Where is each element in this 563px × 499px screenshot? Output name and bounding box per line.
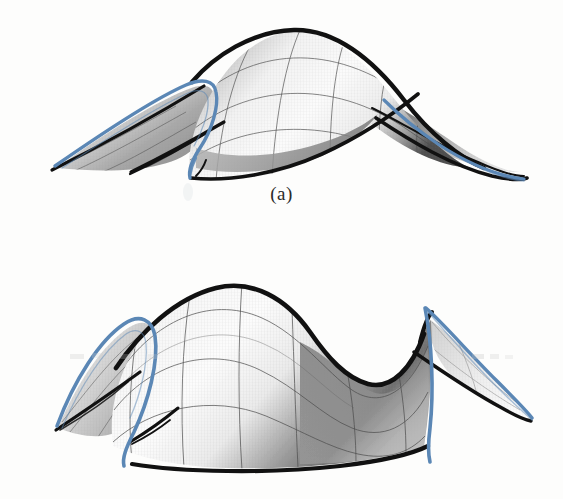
figure-panel-b: (b) xyxy=(0,250,563,499)
figure-panel-a: (a) xyxy=(0,0,563,250)
figure-a-caption: (a) xyxy=(0,183,563,205)
surface-b-main xyxy=(112,282,432,470)
figure-a-graphic xyxy=(0,0,563,250)
figure-plate: (a) xyxy=(0,0,563,499)
figure-b-graphic xyxy=(0,250,563,499)
